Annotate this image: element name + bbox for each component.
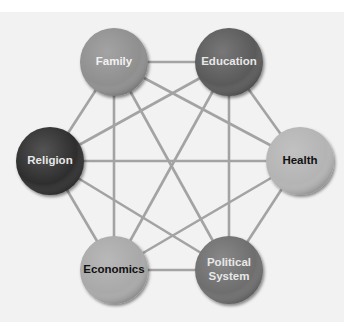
node-label: Health	[282, 154, 317, 166]
node-political-system: PoliticalSystem	[195, 236, 263, 304]
node-label: Education	[201, 55, 257, 67]
connection-lines	[50, 62, 300, 270]
node-label: Political	[207, 256, 251, 268]
node-label: Family	[96, 55, 133, 67]
institution-nodes: FamilyEducationReligionHealthEconomicsPo…	[16, 28, 334, 304]
node-label: System	[209, 270, 250, 282]
node-economics: Economics	[80, 236, 148, 304]
social-institutions-network-diagram: FamilyEducationReligionHealthEconomicsPo…	[0, 0, 344, 322]
node-health: Health	[266, 127, 334, 195]
node-label: Religion	[27, 154, 72, 166]
node-label: Economics	[83, 263, 144, 275]
node-religion: Religion	[16, 127, 84, 195]
node-education: Education	[195, 28, 263, 96]
node-family: Family	[80, 28, 148, 96]
